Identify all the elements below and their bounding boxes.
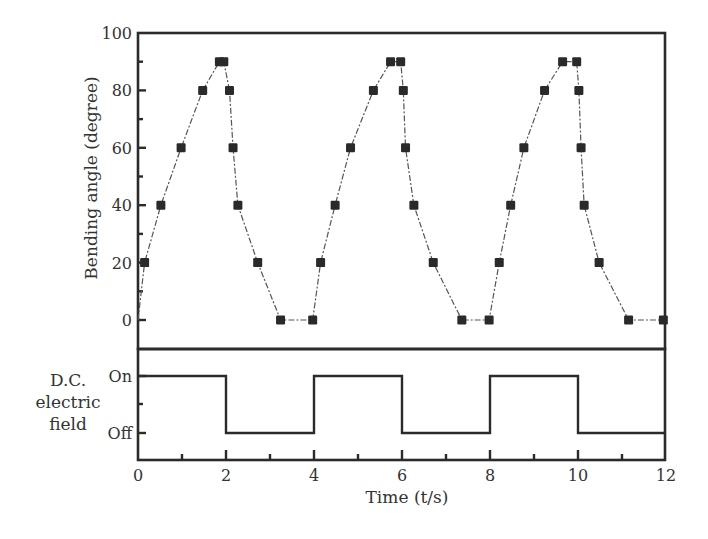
data-point-marker xyxy=(399,86,408,95)
bending-angle-series xyxy=(138,57,668,324)
data-point-marker xyxy=(572,57,581,66)
data-point-marker xyxy=(485,316,494,325)
x-tick-label: 2 xyxy=(221,466,231,485)
data-point-marker xyxy=(253,258,262,267)
x-tick-label: 6 xyxy=(397,466,407,485)
y-axis-title-bottom-line2: electric xyxy=(36,392,101,412)
data-point-marker xyxy=(316,258,325,267)
data-point-marker xyxy=(519,143,528,152)
bending-angle-chart: 020406080100 Bending angle (degree) 0246… xyxy=(0,0,708,539)
y-axis-title-bottom-line3: field xyxy=(49,414,87,434)
y-axis-ticks: 020406080100 xyxy=(101,24,146,330)
x-axis-title: Time (t/s) xyxy=(366,487,449,507)
data-point-marker xyxy=(346,143,355,152)
electric-field-step-line xyxy=(138,376,666,433)
electric-field-series xyxy=(138,376,666,433)
data-point-marker xyxy=(233,201,242,210)
y-tick-label-off: Off xyxy=(108,424,134,443)
top-plot-frame xyxy=(138,33,665,349)
data-point-marker xyxy=(140,258,149,267)
data-point-marker xyxy=(659,316,668,325)
bending-angle-line xyxy=(138,62,663,320)
data-point-marker xyxy=(540,86,549,95)
x-axis-ticks: 024681012 xyxy=(133,450,676,485)
data-point-marker xyxy=(409,201,418,210)
data-point-marker xyxy=(396,57,405,66)
data-point-marker xyxy=(331,201,340,210)
data-point-marker xyxy=(495,258,504,267)
data-point-marker xyxy=(276,316,285,325)
y-tick-label: 80 xyxy=(112,81,132,100)
data-point-marker xyxy=(506,201,515,210)
data-point-marker xyxy=(386,57,395,66)
data-point-marker xyxy=(580,201,589,210)
y-axis-title-bottom-line1: D.C. xyxy=(50,370,86,390)
x-tick-label: 0 xyxy=(133,466,143,485)
data-point-marker xyxy=(595,258,604,267)
data-point-marker xyxy=(156,201,165,210)
y-tick-label-on: On xyxy=(109,367,132,386)
x-tick-label: 10 xyxy=(568,466,588,485)
x-tick-label: 4 xyxy=(309,466,319,485)
data-point-marker xyxy=(624,316,633,325)
data-point-marker xyxy=(229,143,238,152)
y-tick-label: 100 xyxy=(101,24,132,43)
x-tick-label: 12 xyxy=(656,466,676,485)
data-point-marker xyxy=(177,143,186,152)
data-point-marker xyxy=(577,143,586,152)
data-point-marker xyxy=(429,258,438,267)
y-axis-title: Bending angle (degree) xyxy=(81,76,101,279)
y-tick-label: 40 xyxy=(112,196,132,215)
y-tick-label: 0 xyxy=(122,311,132,330)
y-tick-label: 60 xyxy=(112,139,132,158)
top-panel: 020406080100 Bending angle (degree) xyxy=(81,24,668,349)
data-point-marker xyxy=(198,86,207,95)
data-point-marker xyxy=(574,86,583,95)
data-point-marker xyxy=(558,57,567,66)
y-tick-label: 20 xyxy=(112,254,132,273)
x-tick-label: 8 xyxy=(485,466,495,485)
data-point-marker xyxy=(308,316,317,325)
data-point-marker xyxy=(369,86,378,95)
data-point-marker xyxy=(401,143,410,152)
bottom-panel: 024681012 On Off D.C. electric field xyxy=(36,349,677,485)
data-point-marker xyxy=(225,86,234,95)
data-point-marker xyxy=(457,316,466,325)
data-point-marker xyxy=(219,57,228,66)
